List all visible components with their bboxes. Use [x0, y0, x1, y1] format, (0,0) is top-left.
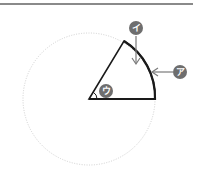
label-u: ウ	[99, 84, 113, 98]
label-i: イ	[129, 21, 143, 35]
label-a: ア	[173, 65, 187, 79]
